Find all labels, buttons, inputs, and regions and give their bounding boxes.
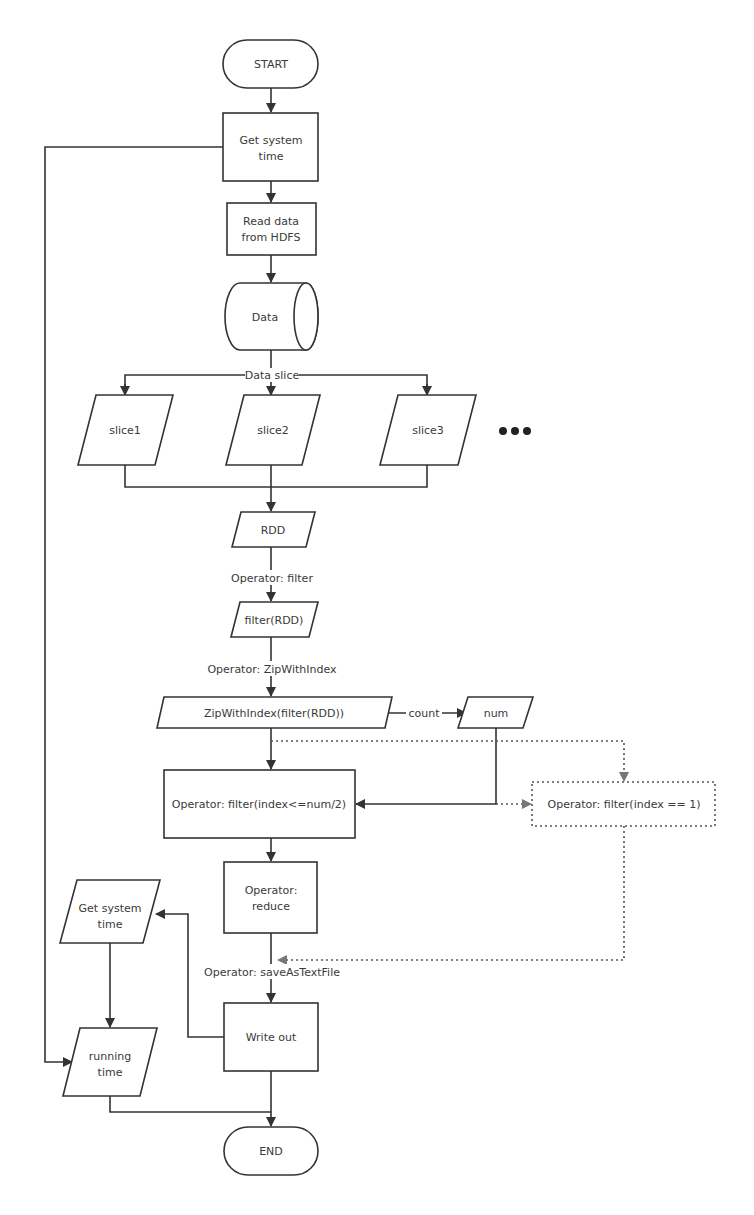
get-time-1-line2: time [259,150,284,163]
filter-one-label: Operator: filter(index == 1) [548,798,701,811]
filter-half-label: Operator: filter(index<=num/2) [172,798,346,811]
label-op-save: Operator: saveAsTextFile [204,966,340,979]
node-get-system-time-1: Get system time [223,113,318,181]
get-time-1-line1: Get system [240,134,303,147]
end-label: END [259,1145,283,1158]
filter-rdd-label: filter(RDD) [245,614,304,627]
read-data-line2: from HDFS [242,231,301,244]
rdd-label: RDD [261,524,286,537]
slice1-label: slice1 [109,424,141,437]
label-op-filter: Operator: filter [231,572,313,585]
node-zipwithindex: ZipWithIndex(filter(RDD)) [157,697,392,728]
reduce-line2: reduce [252,900,290,913]
node-start: START [223,40,318,88]
slice3-label: slice3 [412,424,444,437]
node-read-data: Read data from HDFS [227,203,316,255]
label-data-slice: Data slice [245,369,300,382]
num-label: num [484,707,509,720]
node-filter-rdd: filter(RDD) [231,602,318,637]
reduce-line1: Operator: [245,884,298,897]
node-data-store: Data [225,283,318,350]
node-filter-half: Operator: filter(index<=num/2) [164,770,355,838]
running-time-line2: time [98,1066,123,1079]
node-rdd: RDD [232,512,315,547]
running-time-line1: running [89,1050,131,1063]
edge-slices-join [125,465,427,487]
get-time-2-line2: time [98,918,123,931]
node-running-time: running time [63,1028,157,1096]
data-label: Data [252,311,278,324]
node-filter-one: Operator: filter(index == 1) [532,782,715,826]
node-slice2: slice2 [226,395,320,465]
node-get-system-time-2: Get system time [60,880,160,943]
start-label: START [254,58,288,71]
edge-filterone-save [278,826,624,960]
node-slice3: slice3 [380,395,476,465]
flowchart: START Get system time Read data from HDF… [0,0,754,1215]
read-data-line1: Read data [243,215,299,228]
write-out-label: Write out [246,1031,297,1044]
zip-label: ZipWithIndex(filter(RDD)) [204,707,344,720]
get-time-2-line1: Get system [79,902,142,915]
node-num: num [458,697,533,728]
node-reduce: Operator: reduce [224,862,317,933]
edge-num-filterhalf [356,728,496,804]
label-op-zip: Operator: ZipWithIndex [207,663,337,676]
node-end: END [224,1127,318,1175]
node-slice1: slice1 [78,395,173,465]
edge-running-end [110,1096,271,1112]
ellipsis-more-slices [499,427,531,435]
slice2-label: slice2 [257,424,289,437]
label-count: count [408,707,440,720]
node-write-out: Write out [224,1003,318,1071]
